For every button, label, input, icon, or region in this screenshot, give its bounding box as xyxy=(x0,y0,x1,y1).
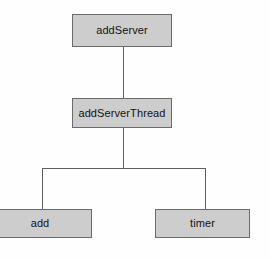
edge-addserver-to-addserverthread xyxy=(123,47,124,98)
edge-addserverthread-to-bus xyxy=(123,128,124,168)
edge-bus-to-add xyxy=(42,168,43,209)
node-addserverthread[interactable]: addServerThread xyxy=(72,98,172,128)
node-addserver-label: addServer xyxy=(94,25,150,36)
edge-horizontal-bus xyxy=(42,168,206,169)
diagram-canvas: addServer addServerThread add timer xyxy=(0,0,270,259)
node-add-label: add xyxy=(29,218,52,229)
node-addserver[interactable]: addServer xyxy=(72,14,172,47)
node-timer[interactable]: timer xyxy=(155,209,250,238)
node-addserverthread-label: addServerThread xyxy=(76,108,167,119)
node-add[interactable]: add xyxy=(0,209,92,238)
node-timer-label: timer xyxy=(188,218,217,229)
edge-bus-to-timer xyxy=(205,168,206,209)
